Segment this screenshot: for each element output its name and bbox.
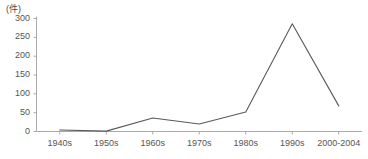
chart-series <box>60 24 339 131</box>
y-axis-tick-label: 100 <box>2 89 30 98</box>
x-axis-tick-label: 1970s <box>187 138 212 148</box>
x-axis-tick-label: 1990s <box>280 138 305 148</box>
y-axis-tick-label: 300 <box>2 14 30 23</box>
x-axis-tick-label: 1980s <box>233 138 258 148</box>
data-line-series <box>60 24 339 131</box>
chart-axes <box>34 17 363 135</box>
x-axis-tick-label: 2000-2004 <box>317 138 360 148</box>
y-axis-tick-label: 50 <box>2 108 30 117</box>
x-axis-tick-label: 1950s <box>94 138 119 148</box>
y-axis-tick-label: 200 <box>2 51 30 60</box>
y-axis-tick-label: 150 <box>2 70 30 79</box>
y-axis-tick-label: 0 <box>2 127 30 136</box>
y-axis-tick-label: 250 <box>2 32 30 41</box>
x-axis-tick-label: 1940s <box>47 138 72 148</box>
chart-plot-area <box>0 0 368 159</box>
line-chart: (件) 050100150200250300 1940s1950s1960s19… <box>0 0 368 159</box>
x-axis-tick-label: 1960s <box>140 138 165 148</box>
